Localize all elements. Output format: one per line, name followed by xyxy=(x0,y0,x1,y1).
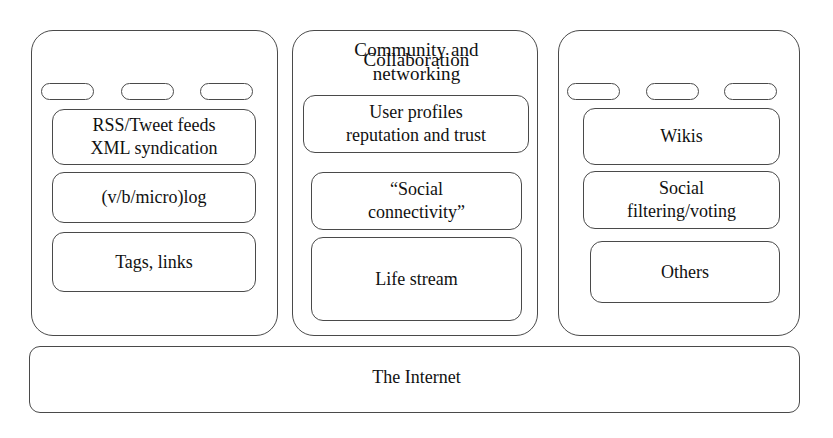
box-user-profiles-reputation-and-trust-label: User profiles reputation and trust xyxy=(346,101,486,147)
pill-row-collaboration xyxy=(567,83,777,100)
box-rss-tweet-feeds-label: RSS/Tweet feeds XML syndication xyxy=(91,114,218,160)
box-others[interactable]: Others xyxy=(590,241,780,303)
pill-collaboration-2[interactable] xyxy=(646,83,699,100)
box-wikis[interactable]: Wikis xyxy=(583,108,780,165)
box-others-label: Others xyxy=(661,261,709,284)
panel-title-collaboration: Collaboration xyxy=(0,48,833,72)
box-rss-tweet-feeds[interactable]: RSS/Tweet feeds XML syndication xyxy=(52,109,256,165)
box-social-filtering-voting[interactable]: Social filtering/voting xyxy=(583,171,780,229)
box-life-stream[interactable]: Life stream xyxy=(311,237,522,321)
box-vbmicro-log[interactable]: (v/b/micro)log xyxy=(52,172,256,223)
box-life-stream-label: Life stream xyxy=(375,268,457,291)
box-user-profiles-reputation-and-trust[interactable]: User profiles reputation and trust xyxy=(303,95,529,153)
pill-collaboration-1[interactable] xyxy=(567,83,620,100)
box-social-connectivity-label: “Social connectivity” xyxy=(368,178,465,224)
pill-collaboration-3[interactable] xyxy=(724,83,777,100)
foundation-bar-label: The Internet xyxy=(0,366,833,388)
diagram-canvas: Communication RSS/Tweet feeds XML syndic… xyxy=(0,0,833,438)
box-tags-links[interactable]: Tags, links xyxy=(52,232,256,292)
box-social-connectivity[interactable]: “Social connectivity” xyxy=(311,172,522,230)
box-vbmicro-log-label: (v/b/micro)log xyxy=(102,186,207,209)
box-social-filtering-voting-label: Social filtering/voting xyxy=(627,177,736,223)
box-wikis-label: Wikis xyxy=(660,125,702,148)
box-tags-links-label: Tags, links xyxy=(115,251,193,274)
